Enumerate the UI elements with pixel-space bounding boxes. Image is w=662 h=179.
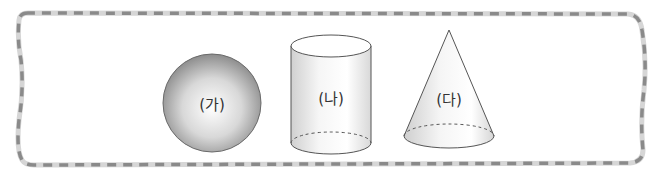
sphere-label: (가) — [199, 93, 225, 114]
cylinder-label: (나) — [318, 87, 344, 108]
cone-label: (다) — [436, 88, 462, 109]
